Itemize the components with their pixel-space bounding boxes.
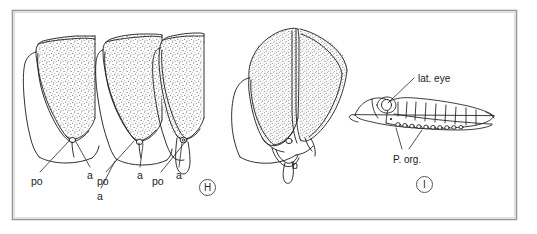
- label-p-org: P. org.: [393, 155, 421, 165]
- label-b: b: [292, 160, 298, 171]
- panel-tag-i: I: [416, 176, 433, 193]
- figure-plate: po a po a po a a b lat. eye P. org. H I: [0, 0, 537, 234]
- label-a-4: a: [97, 191, 103, 202]
- label-a-2: a: [137, 170, 143, 181]
- label-po-1: po: [31, 176, 43, 187]
- label-po-2: po: [97, 176, 109, 187]
- label-lat-eye: lat. eye: [418, 74, 450, 84]
- label-a-1: a: [87, 170, 93, 181]
- label-a-3: a: [176, 170, 182, 181]
- panel-tag-h: H: [199, 179, 216, 196]
- label-po-3: po: [152, 176, 164, 187]
- figure-artwork: [0, 0, 537, 234]
